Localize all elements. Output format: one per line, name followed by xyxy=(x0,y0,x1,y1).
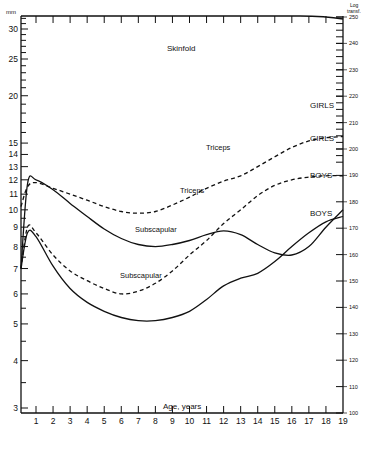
x-tick-label: 8 xyxy=(153,416,158,426)
x-tick-label: 9 xyxy=(170,416,175,426)
left-tick-label: 4 xyxy=(13,356,18,366)
right-tick-label: 120 xyxy=(349,357,358,363)
x-tick-label: 19 xyxy=(338,416,348,426)
right-tick-label: 160 xyxy=(349,252,358,258)
right-tick-label: 210 xyxy=(349,120,358,126)
left-tick-label: 3 xyxy=(13,403,18,413)
triceps-girls-line xyxy=(21,137,343,214)
x-tick-label: 10 xyxy=(185,416,195,426)
right-tick-label: 220 xyxy=(349,93,358,99)
left-tick-label: 14 xyxy=(9,149,19,159)
label-boys-subscapular-end: BOYS xyxy=(310,209,332,218)
plot-frame xyxy=(21,16,343,413)
x-tick-label: 11 xyxy=(202,416,211,426)
right-tick-label: 200 xyxy=(349,146,358,152)
label-subscapular-boys: Subscapular xyxy=(120,271,162,280)
right-tick-label: 190 xyxy=(349,172,358,178)
left-tick-label: 20 xyxy=(9,91,19,101)
left-tick-label: 7 xyxy=(13,264,18,274)
x-tick-label: 14 xyxy=(253,416,263,426)
right-tick-label: 250 xyxy=(349,14,358,20)
right-tick-label: 240 xyxy=(349,40,358,46)
series-lines xyxy=(21,137,343,321)
label-triceps-girls: Triceps xyxy=(206,143,231,152)
right-tick-label: 170 xyxy=(349,225,358,231)
right-tick-label: 130 xyxy=(349,331,358,337)
label-subscapular-girls: Subscapular xyxy=(135,225,177,234)
right-tick-label: 150 xyxy=(349,278,358,284)
right-tick-label: 110 xyxy=(349,384,358,390)
subscapular-boys-line xyxy=(21,217,343,322)
x-tick-label: 4 xyxy=(85,416,90,426)
left-tick-label: 12 xyxy=(9,175,19,185)
left-tick-label: 11 xyxy=(9,189,18,199)
label-girls-subscapular-end: GIRLS xyxy=(310,134,334,143)
x-tick-label: 12 xyxy=(219,416,229,426)
x-tick-label: 13 xyxy=(236,416,246,426)
right-tick-label: 140 xyxy=(349,304,358,310)
right-tick-label: 100 xyxy=(349,410,358,416)
x-tick-label: 5 xyxy=(102,416,107,426)
label-boys-triceps-end: BOYS xyxy=(310,171,332,180)
left-tick-label: 30 xyxy=(9,24,19,34)
left-tick-label: 25 xyxy=(9,54,19,64)
x-tick-label: 1 xyxy=(34,416,39,426)
left-tick-label: 8 xyxy=(13,242,18,252)
left-tick-label: 6 xyxy=(13,289,18,299)
left-tick-label: 15 xyxy=(9,138,19,148)
label-triceps-boys: Triceps xyxy=(180,186,205,195)
left-tick-label: 5 xyxy=(13,319,18,329)
x-tick-label: 18 xyxy=(321,416,331,426)
x-tick-label: 2 xyxy=(51,416,56,426)
x-tick-label: 16 xyxy=(287,416,297,426)
right-tick-label: 230 xyxy=(349,67,358,73)
left-tick-label: 13 xyxy=(9,162,19,172)
label-girls-triceps-end: GIRLS xyxy=(310,101,334,110)
x-tick-label: 7 xyxy=(136,416,141,426)
x-tick-label: 6 xyxy=(119,416,124,426)
left-tick-label: 9 xyxy=(13,222,18,232)
left-axis-unit: mm xyxy=(6,9,16,15)
skinfold-chart: 3456789101112131415202530 10011012013014… xyxy=(0,0,373,451)
chart-title: Skinfold xyxy=(167,44,195,53)
right-tick-label: 180 xyxy=(349,199,358,205)
x-tick-label: 3 xyxy=(68,416,73,426)
right-axis: 1001101201301401501601701801902002102202… xyxy=(336,14,358,416)
x-axis-label: Age, years xyxy=(163,402,201,411)
x-axis: 12345678910111213141516171819 xyxy=(34,16,348,426)
left-tick-label: 10 xyxy=(9,205,19,215)
x-tick-label: 17 xyxy=(304,416,314,426)
x-tick-label: 15 xyxy=(270,416,280,426)
right-axis-title-2: transf. xyxy=(347,8,361,14)
